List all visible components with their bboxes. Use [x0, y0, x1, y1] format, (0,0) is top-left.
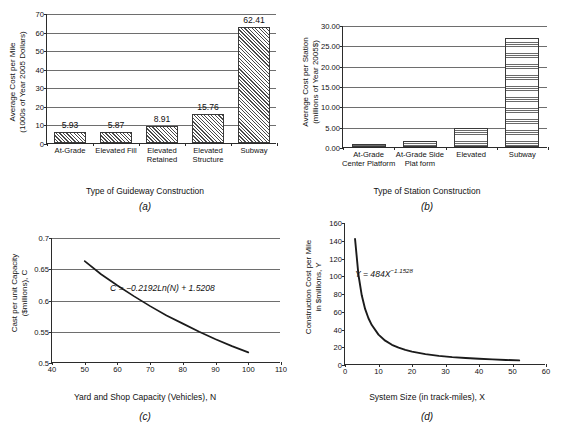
- chart-a-plot-area: 0102030405060705.93At-Grade5.87Elevated …: [46, 14, 276, 144]
- chart-b-y-tickmark: [340, 26, 343, 27]
- chart-b-y-tickmark: [340, 87, 343, 88]
- chart-b-bar: [505, 38, 539, 147]
- chart-c-x-tick-label: 110: [275, 365, 287, 374]
- chart-a-bar-value-label: 15.76: [197, 102, 219, 112]
- chart-a-bar-value-label: 5.93: [62, 120, 79, 130]
- chart-panel-d: Construction Cost per Mile in $millions,…: [290, 215, 564, 441]
- chart-a-y-axis-title-line2: (1000s of Year 2005 Dollars): [18, 17, 28, 147]
- chart-d-x-tick-label: 40: [475, 367, 483, 376]
- chart-d-y-axis-title-line2: in $millions, Y: [314, 217, 324, 357]
- chart-d-y-tick-label: 0: [338, 361, 342, 370]
- chart-c-x-tick-label: 90: [211, 365, 219, 374]
- chart-a-y-tickmark: [44, 14, 47, 15]
- chart-d-x-tick-label: 20: [408, 367, 416, 376]
- chart-a-y-tick-label: 10: [36, 121, 44, 130]
- chart-a-y-tick-label: 60: [36, 28, 44, 37]
- chart-b-y-axis-title: Average Cost per Station (millions of Ye…: [301, 17, 321, 147]
- figure-grid: Average Cost per Mile (1000s of Year 200…: [0, 0, 564, 441]
- chart-d-y-tick-label: 60: [334, 307, 342, 316]
- chart-a-y-tick-label: 50: [36, 47, 44, 56]
- chart-a-y-axis-title-line1: Average Cost per Mile: [8, 17, 18, 147]
- chart-d-equation-annotation: Y = 484X−1.1528: [355, 267, 413, 279]
- chart-panel-b: Average Cost per Station (millions of Ye…: [290, 0, 564, 215]
- chart-c-panel-label: (c): [0, 411, 290, 422]
- chart-a-y-tickmark: [44, 33, 47, 34]
- chart-d-y-tick-label: 140: [329, 236, 342, 245]
- chart-b-x-tickmark: [548, 147, 549, 150]
- chart-a-gridline: [47, 14, 276, 15]
- chart-c-y-tick-label: 0.6: [38, 296, 49, 305]
- chart-b-y-axis-title-line2: (millions of Year 2005$): [311, 17, 321, 147]
- chart-b-x-axis-title: Type of Station Construction: [290, 186, 564, 196]
- chart-d-y-tick-label: 40: [334, 325, 342, 334]
- chart-d-y-tick-label: 100: [329, 272, 342, 281]
- chart-d-x-tick-label: 30: [441, 367, 449, 376]
- chart-a-x-tick-label-line: Structure: [181, 155, 235, 164]
- chart-c-x-tick-label: 50: [80, 365, 88, 374]
- chart-b-y-tick-label: 0.00: [325, 144, 340, 153]
- chart-c-series-line: [52, 238, 281, 363]
- chart-a-y-tick-label: 40: [36, 65, 44, 74]
- chart-a-x-tickmark: [277, 143, 278, 146]
- chart-a-bar-value-label: 5.87: [108, 120, 125, 130]
- chart-b-bar: [454, 128, 488, 147]
- chart-a-y-tickmark: [44, 125, 47, 126]
- chart-a-y-axis-title: Average Cost per Mile (1000s of Year 200…: [8, 17, 28, 147]
- chart-c-y-tick-label: 0.55: [34, 327, 49, 336]
- chart-b-y-tick-label: 20.00: [321, 62, 340, 71]
- chart-b-y-tickmark: [340, 46, 343, 47]
- chart-d-series-line: [345, 223, 546, 365]
- chart-a-y-tick-label: 70: [36, 10, 44, 19]
- chart-b-plot-area: 0.005.0010.0015.0020.0025.0030.00At-Grad…: [342, 26, 547, 148]
- chart-c-plot-area: 0.50.550.60.650.7405060708090100110: [51, 238, 280, 363]
- chart-a-bar: 62.41: [238, 27, 270, 143]
- chart-c-x-axis-title: Yard and Shop Capacity (Vehicles), N: [0, 392, 290, 402]
- chart-b-y-tickmark: [340, 107, 343, 108]
- chart-c-x-tick-label: 80: [179, 365, 187, 374]
- chart-c-y-axis-title-line1: Cast per unit Capacity: [10, 233, 20, 353]
- chart-c-equation-annotation: C = −0.2192Ln(N) + 1.5208: [110, 283, 215, 293]
- chart-d-y-tick-label: 20: [334, 343, 342, 352]
- chart-b-y-axis-title-line1: Average Cost per Station: [301, 17, 311, 147]
- chart-b-bar: [403, 141, 437, 147]
- chart-a-y-tickmark: [44, 70, 47, 71]
- chart-c-y-tick-label: 0.7: [38, 234, 49, 243]
- chart-d-plot-area: 0204060801001201401600102030405060: [344, 223, 545, 365]
- chart-d-y-tick-label: 80: [334, 290, 342, 299]
- chart-d-x-tick-label: 0: [343, 367, 347, 376]
- chart-d-x-tick-label: 10: [374, 367, 382, 376]
- chart-c-x-tick-label: 100: [242, 365, 255, 374]
- chart-c-y-axis-title-line2: ($millions), C: [20, 233, 30, 353]
- chart-d-equation-exponent: −1.1528: [390, 267, 413, 274]
- chart-b-x-tick-label-line: Plat form: [390, 159, 449, 168]
- chart-d-x-tick-label: 60: [542, 367, 550, 376]
- chart-a-bar-value-label: 8.91: [154, 114, 171, 124]
- chart-b-panel-label: (b): [290, 201, 564, 212]
- chart-a-y-tickmark: [44, 88, 47, 89]
- chart-c-x-tick-label: 40: [48, 365, 56, 374]
- chart-a-y-tick-label: 30: [36, 84, 44, 93]
- chart-a-panel-label: (a): [0, 201, 290, 212]
- chart-a-bar: 8.91: [146, 126, 178, 143]
- chart-b-x-tick-label: Subway: [493, 150, 552, 159]
- chart-d-panel-label: (d): [290, 411, 564, 422]
- chart-a-x-tick-label: Subway: [227, 146, 281, 155]
- chart-a-x-axis-title: Type of Guideway Construction: [0, 186, 290, 196]
- chart-b-x-tick-label-line: Subway: [493, 150, 552, 159]
- chart-b-y-tick-label: 10.00: [321, 103, 340, 112]
- chart-b-y-tickmark: [340, 128, 343, 129]
- chart-a-y-tickmark: [44, 107, 47, 108]
- chart-a-y-tick-label: 20: [36, 102, 44, 111]
- chart-a-bar-value-label: 62.41: [243, 15, 265, 25]
- chart-a-bar: 5.87: [100, 132, 132, 143]
- chart-d-x-axis-title: System Size (in track-miles), X: [290, 392, 564, 402]
- chart-d-x-tick-label: 50: [508, 367, 516, 376]
- chart-panel-a: Average Cost per Mile (1000s of Year 200…: [0, 0, 290, 215]
- chart-b-y-tick-label: 5.00: [325, 123, 340, 132]
- chart-d-equation-base: Y = 484X: [355, 269, 390, 279]
- chart-b-bar: [352, 144, 386, 147]
- chart-b-y-tickmark: [340, 67, 343, 68]
- chart-d-y-axis-title-line1: Construction Cost per Mile: [304, 217, 314, 357]
- chart-d-y-axis-title: Construction Cost per Mile in $millions,…: [304, 217, 324, 357]
- chart-d-y-tick-label: 120: [329, 254, 342, 263]
